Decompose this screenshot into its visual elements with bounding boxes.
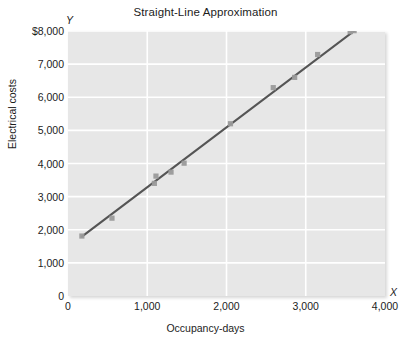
- data-point: [271, 85, 276, 90]
- data-point: [153, 173, 158, 178]
- data-point: [228, 121, 233, 126]
- data-point: [109, 216, 114, 221]
- data-point: [315, 52, 320, 57]
- x-axis-tick-label: 1,000: [134, 300, 160, 312]
- y-axis-tick-label: 3,000: [0, 191, 64, 203]
- x-axis-title: Occupancy-days: [0, 322, 411, 334]
- plot-canvas: [68, 31, 385, 296]
- x-axis-tick-label: 3,000: [293, 300, 319, 312]
- data-point: [79, 233, 84, 238]
- data-point: [182, 161, 187, 166]
- x-axis-tick-labels: 01,0002,0003,0004,000: [0, 300, 411, 316]
- plot-area: [68, 31, 385, 296]
- data-point: [152, 181, 157, 186]
- x-axis-tick-label: 0: [65, 300, 71, 312]
- x-axis-marker: X: [390, 286, 397, 298]
- y-axis-tick-label: 1,000: [0, 257, 64, 269]
- y-axis-title: Electrical costs: [6, 58, 18, 170]
- trendline: [82, 31, 355, 237]
- chart-container: Straight-Line Approximation Y X $8,0007,…: [0, 0, 411, 347]
- y-axis-tick-label: $8,000: [0, 25, 64, 37]
- data-point: [168, 170, 173, 175]
- x-axis-tick-label: 2,000: [213, 300, 239, 312]
- y-axis-tick-label: 2,000: [0, 224, 64, 236]
- data-point: [351, 31, 356, 33]
- x-axis-tick-label: 4,000: [372, 300, 398, 312]
- data-point: [292, 75, 297, 80]
- y-axis-marker: Y: [66, 14, 73, 26]
- chart-title: Straight-Line Approximation: [0, 6, 411, 18]
